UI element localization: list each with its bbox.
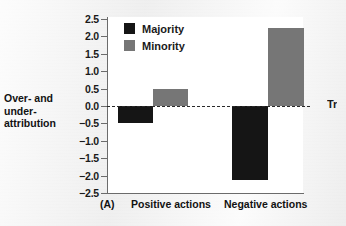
legend-item-majority: Majority — [124, 21, 185, 36]
y-axis-title-line-3: attribution — [4, 117, 76, 130]
bar-majority-positive-actions — [118, 106, 153, 123]
legend-swatch-minority-icon — [124, 40, 135, 51]
chart-figure: 2.52.01.51.00.50.0−0.5−1.0−1.5−2.0−2.5 M… — [0, 0, 346, 226]
y-axis-title-line-2: under- — [4, 105, 76, 118]
bar-minority-negative-actions — [268, 28, 304, 106]
y-tick-label: −2.5 — [43, 187, 99, 199]
y-tick-mark — [101, 123, 107, 124]
y-tick-mark — [101, 158, 107, 159]
x-category-label-positive-actions: Positive actions — [131, 198, 211, 210]
y-tick-mark — [101, 89, 107, 90]
legend-swatch-majority-icon — [124, 23, 135, 34]
y-tick-mark — [101, 19, 107, 20]
bar-minority-positive-actions — [153, 89, 188, 106]
zero-reference-line — [107, 106, 310, 107]
y-tick-mark — [101, 36, 107, 37]
y-axis-title-line-1: Over- and — [4, 92, 76, 105]
y-tick-label: −1.5 — [43, 152, 99, 164]
y-tick-label: 1.0 — [43, 65, 99, 77]
x-axis-line — [107, 193, 304, 194]
y-tick-label: 1.5 — [43, 48, 99, 60]
y-tick-mark — [101, 71, 107, 72]
legend-label-majority: Majority — [142, 23, 184, 35]
y-tick-mark — [101, 141, 107, 142]
panel-label: (A) — [100, 198, 115, 210]
legend-item-minority: Minority — [124, 38, 185, 53]
chart-legend: Majority Minority — [124, 21, 185, 55]
y-tick-label: 2.0 — [43, 30, 99, 42]
y-tick-label: 2.5 — [43, 13, 99, 25]
y-tick-label: −2.0 — [43, 170, 99, 182]
y-tick-label: −1.0 — [43, 135, 99, 147]
y-tick-mark — [101, 176, 107, 177]
y-tick-mark — [101, 54, 107, 55]
y-axis-title: Over- and under- attribution — [4, 92, 76, 130]
adjacent-figure-text: Tr — [327, 98, 337, 110]
x-category-label-negative-actions: Negative actions — [224, 198, 307, 210]
bar-majority-negative-actions — [232, 106, 268, 180]
y-tick-mark — [101, 193, 107, 194]
legend-label-minority: Minority — [142, 40, 185, 52]
